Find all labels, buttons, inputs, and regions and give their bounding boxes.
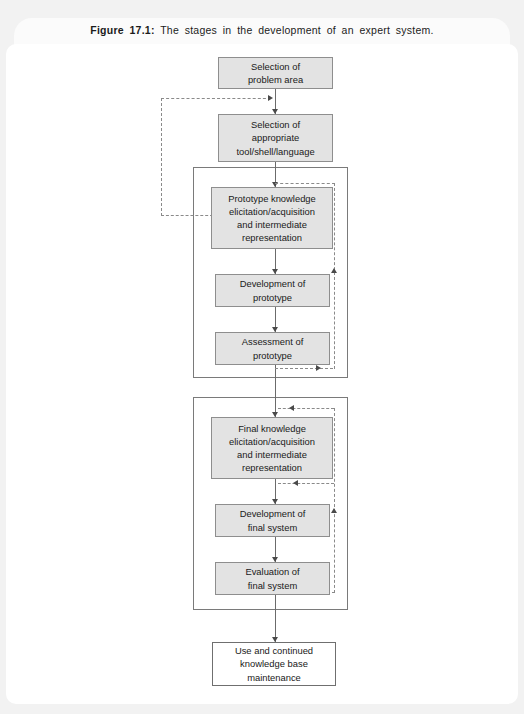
figure-caption-label: Figure 17.1:	[90, 24, 154, 36]
figure-page: Figure 17.1: The stages in the developme…	[0, 0, 524, 714]
figure-caption: Figure 17.1: The stages in the developme…	[0, 24, 524, 36]
feedback-g1-to-n2-segment-top	[161, 98, 271, 99]
figure-caption-text: The stages in the development of an expe…	[160, 24, 434, 36]
feedback-g1-to-n2-segment-bottom	[161, 215, 218, 216]
connector-n8-n9	[275, 595, 276, 642]
node-assessment-of-prototype[interactable]: Assessment of prototype	[215, 332, 330, 365]
node-final-knowledge-elicitation[interactable]: Final knowledge elicitation/acquisition …	[211, 417, 333, 479]
arrowhead-g2-rail-up	[331, 508, 337, 513]
feedback-g1-loop-top	[275, 183, 335, 184]
node-use-and-continued-maintenance[interactable]: Use and continued knowledge base mainten…	[212, 642, 336, 686]
feedback-g1-to-n2-segment-left	[161, 98, 162, 216]
feedback-g2-to-n6-top	[278, 408, 334, 409]
node-prototype-knowledge-elicitation[interactable]: Prototype knowledge elicitation/acquisit…	[211, 187, 333, 249]
arrowhead-g1-loop-up	[331, 268, 337, 273]
feedback-g1-loop-right	[334, 183, 335, 369]
connector-n5-n6	[275, 365, 276, 417]
node-development-of-prototype[interactable]: Development of prototype	[215, 274, 330, 307]
node-selection-of-tool[interactable]: Selection of appropriate tool/shell/lang…	[218, 114, 333, 162]
node-evaluation-of-final-system[interactable]: Evaluation of final system	[215, 562, 330, 595]
node-development-of-final-system[interactable]: Development of final system	[215, 504, 330, 537]
node-selection-of-problem-area[interactable]: Selection of problem area	[218, 57, 333, 89]
arrowhead-g2-to-n7-mid	[293, 480, 298, 486]
feedback-g2-right-rail	[334, 408, 335, 593]
arrowhead-feedback-g1-to-n2	[268, 95, 273, 101]
arrowhead-g2-to-n6-top	[289, 405, 294, 411]
feedback-g1-loop-bottom	[275, 368, 333, 369]
arrowhead-g1-loop-bottom	[316, 365, 321, 371]
feedback-g2-to-n7-mid	[278, 483, 334, 484]
